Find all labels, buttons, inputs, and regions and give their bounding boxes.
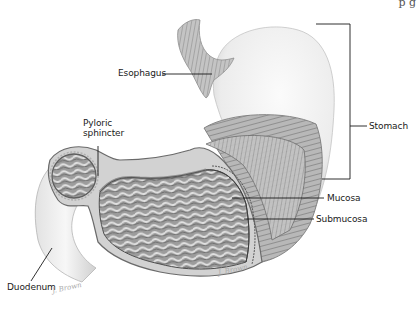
cut-off-text-fragment: p g xyxy=(398,0,416,9)
label-esophagus: Esophagus xyxy=(118,68,166,78)
label-pyloric-sphincter: Pyloric sphincter xyxy=(83,118,133,138)
stomach-illustration xyxy=(0,0,418,309)
duodenum-leader xyxy=(31,248,52,281)
label-stomach: Stomach xyxy=(369,121,408,131)
stomach-diagram: p g Esophagus Pyloric sphincter Stomach … xyxy=(0,0,418,309)
label-submucosa: Submucosa xyxy=(316,214,367,224)
label-duodenum: Duodenum xyxy=(7,282,56,292)
pyloric-bulb xyxy=(52,154,96,198)
label-mucosa: Mucosa xyxy=(327,193,361,203)
